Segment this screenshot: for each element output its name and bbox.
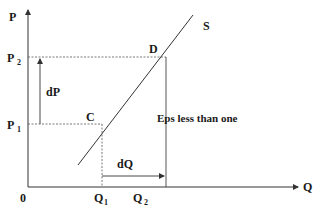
svg-text:1: 1 — [17, 125, 21, 134]
svg-text:1: 1 — [104, 198, 108, 207]
origin-label: 0 — [20, 191, 26, 205]
svg-text:2: 2 — [17, 58, 21, 67]
y-axis-label: P — [9, 10, 16, 24]
svg-text:Q: Q — [133, 191, 142, 205]
svg-text:P: P — [7, 118, 14, 132]
elasticity-annotation: Eps less than one — [157, 112, 238, 124]
q1-label: Q 1 — [94, 191, 108, 207]
svg-text:Q: Q — [94, 191, 103, 205]
supply-curve — [78, 15, 193, 165]
supply-elasticity-diagram: P Q 0 S D C P 2 P 1 Q 1 Q 2 dP dQ Eps le… — [0, 0, 320, 213]
point-d-label: D — [149, 42, 158, 56]
price-change-label: dP — [46, 85, 60, 99]
p1-label: P 1 — [7, 118, 21, 134]
svg-text:2: 2 — [144, 198, 148, 207]
q2-label: Q 2 — [133, 191, 148, 207]
quantity-change-label: dQ — [117, 157, 133, 171]
svg-text:P: P — [7, 51, 14, 65]
p2-label: P 2 — [7, 51, 21, 67]
x-axis-label: Q — [303, 180, 312, 194]
supply-curve-label: S — [203, 19, 210, 33]
point-c-label: C — [86, 110, 95, 124]
